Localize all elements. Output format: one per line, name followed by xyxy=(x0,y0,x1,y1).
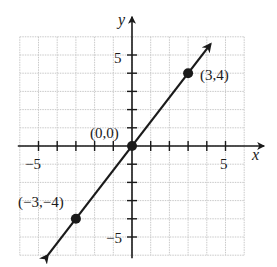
point-marker xyxy=(183,68,193,78)
x-tick-label-5: 5 xyxy=(220,156,228,172)
x-axis-label: x xyxy=(251,146,259,163)
point-marker xyxy=(127,141,137,151)
labels: y x −5 5 5 −5 (0,0) (3,4) (−3,−4) xyxy=(18,11,259,246)
y-axis-label: y xyxy=(116,11,126,29)
point-label-3-4: (3,4) xyxy=(200,67,229,84)
axes xyxy=(18,17,264,258)
y-tick-label-5: 5 xyxy=(114,50,122,66)
x-tick-label-neg5: −5 xyxy=(25,156,41,172)
point-label-origin: (0,0) xyxy=(90,125,119,142)
coordinate-plane: y x −5 5 5 −5 (0,0) (3,4) (−3,−4) xyxy=(0,0,277,267)
point-label-neg3-neg4: (−3,−4) xyxy=(18,194,64,211)
point-marker xyxy=(71,214,81,224)
y-tick-label-neg5: −5 xyxy=(106,230,122,246)
